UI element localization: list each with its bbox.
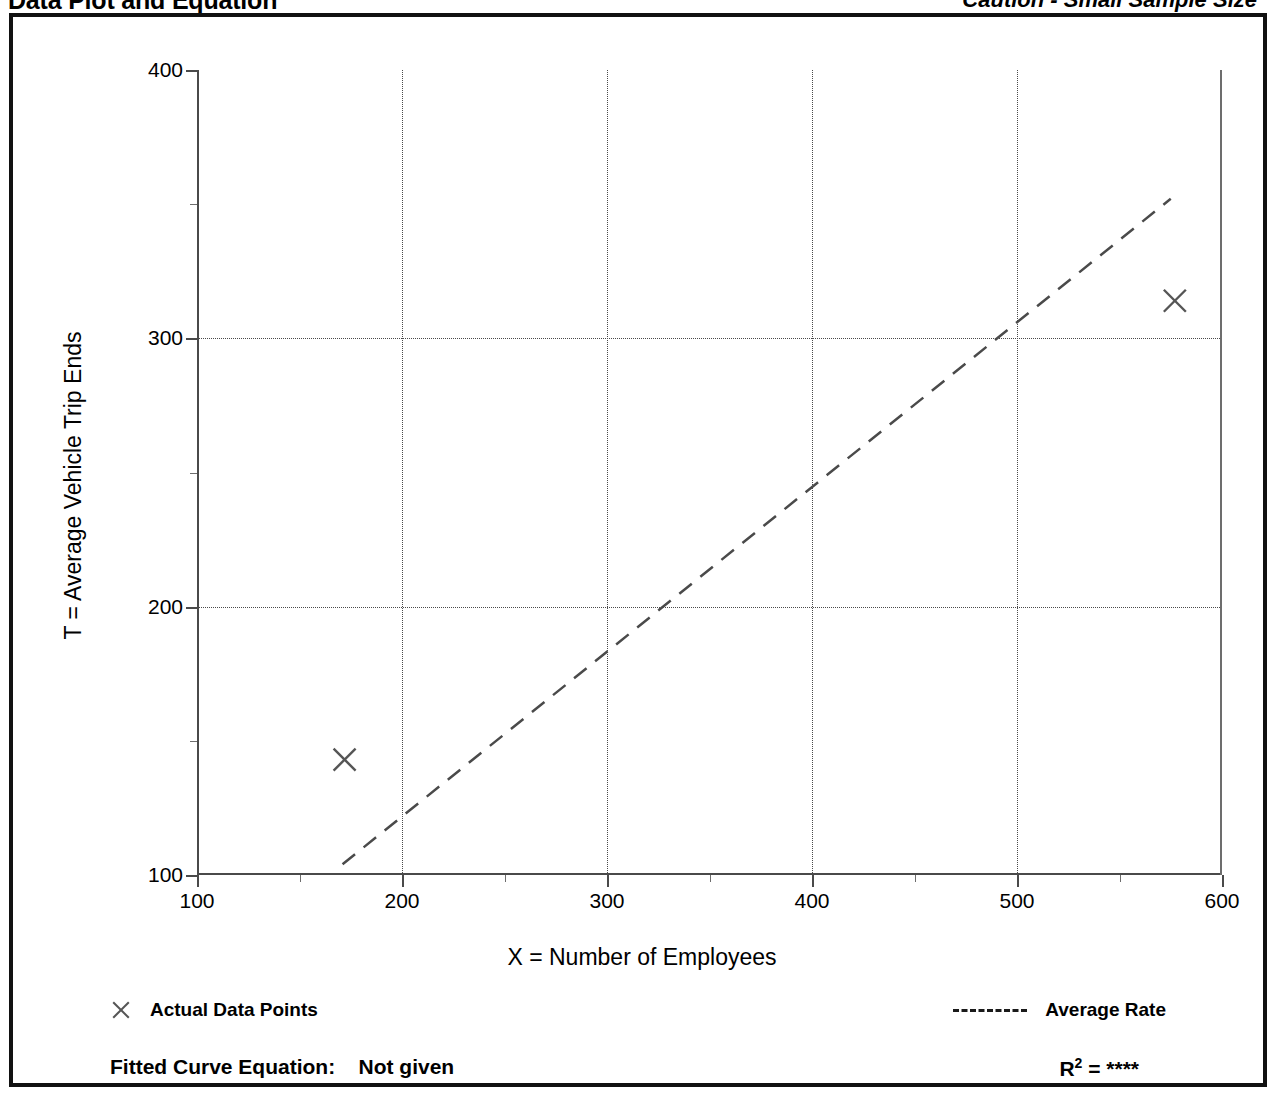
- plot-area: [197, 70, 1222, 875]
- x-tick-major: [402, 875, 404, 887]
- x-tick-major: [1017, 875, 1019, 887]
- x-tick-minor: [915, 875, 916, 882]
- y-tick-label: 200: [148, 595, 183, 619]
- x-tick-label: 200: [384, 889, 419, 913]
- x-cross-icon: [110, 999, 132, 1021]
- figure-panel: 100 200 300 400: [9, 13, 1267, 1087]
- x-tick-minor: [300, 875, 301, 882]
- x-tick-major: [1222, 875, 1224, 887]
- r-symbol: R: [1059, 1057, 1074, 1080]
- x-tick-label: 100: [179, 889, 214, 913]
- x-tick-major: [812, 875, 814, 887]
- x-tick-label: 600: [1204, 889, 1239, 913]
- data-point-marker: [334, 749, 356, 771]
- x-tick-label: 400: [794, 889, 829, 913]
- x-tick-minor: [710, 875, 711, 882]
- data-point-marker: [1164, 290, 1186, 312]
- caution-note: Caution - Small Sample Size: [962, 0, 1257, 13]
- y-tick-label: 300: [148, 326, 183, 350]
- legend-label: Average Rate: [1045, 999, 1166, 1021]
- fitted-curve-equation: Fitted Curve Equation: Not given: [110, 1055, 454, 1079]
- y-axis-title: T = Average Vehicle Trip Ends: [60, 86, 87, 886]
- legend-label: Actual Data Points: [150, 999, 318, 1021]
- legend-item-actual-data-points: Actual Data Points: [110, 999, 318, 1021]
- fitted-curve-label: Fitted Curve Equation:: [110, 1055, 335, 1078]
- figure-footer: Fitted Curve Equation: Not given R2 = **…: [13, 1055, 1271, 1095]
- x-tick-minor: [505, 875, 506, 882]
- x-axis-tick-labels: 100 200 300 400 500 600: [197, 889, 1222, 919]
- fitted-curve-value: Not given: [359, 1055, 455, 1078]
- y-tick-major: [186, 607, 197, 609]
- y-tick-minor: [190, 204, 197, 205]
- trendline-segment: [343, 199, 1171, 864]
- x-tick-minor: [1120, 875, 1121, 882]
- y-tick-minor: [190, 473, 197, 474]
- x-tick-label: 500: [999, 889, 1034, 913]
- r-value: ****: [1106, 1057, 1139, 1080]
- y-tick-label: 100: [148, 863, 183, 887]
- series-layer: [197, 70, 1222, 875]
- y-tick-major: [186, 875, 197, 877]
- dashed-line-icon: [953, 1009, 1027, 1012]
- y-tick-minor: [190, 741, 197, 742]
- y-tick-major: [186, 338, 197, 340]
- legend-item-average-rate: Average Rate: [953, 999, 1166, 1021]
- r-squared-value: R2 = ****: [1059, 1055, 1139, 1081]
- actual-data-points: [334, 290, 1186, 771]
- x-tick-label: 300: [589, 889, 624, 913]
- y-tick-label: 400: [148, 58, 183, 82]
- r-exponent: 2: [1075, 1055, 1083, 1071]
- y-tick-major: [186, 70, 197, 72]
- y-axis-tick-labels: 100 200 300 400: [73, 70, 183, 875]
- x-tick-major: [607, 875, 609, 887]
- chart-legend: Actual Data Points Average Rate: [13, 999, 1271, 1041]
- average-rate-trendline: [343, 199, 1171, 864]
- x-tick-major: [197, 875, 199, 887]
- equals-sign: =: [1088, 1057, 1100, 1080]
- x-axis-title: X = Number of Employees: [13, 944, 1271, 971]
